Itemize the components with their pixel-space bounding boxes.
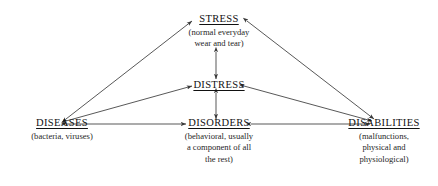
node-diseases[interactable]: DISEASES (bacteria, viruses) xyxy=(31,117,93,142)
node-disabilities-description: (malfunctions, physical and physiologica… xyxy=(348,131,419,165)
node-disabilities-label: DISABILITIES xyxy=(348,117,419,129)
edge-diseases-stress xyxy=(66,21,192,119)
node-disabilities-description-line-3: physiological) xyxy=(348,154,419,165)
node-stress-description: (normal everyday wear and tear) xyxy=(189,27,250,50)
node-diseases-label: DISEASES xyxy=(31,117,93,129)
node-disorders-description: (behavioral, usually a component of all … xyxy=(185,131,253,165)
edge-diseases-distress xyxy=(66,86,192,121)
edge-distress-disabilities xyxy=(244,86,372,121)
diagram-canvas: STRESS (normal everyday wear and tear) D… xyxy=(0,0,438,186)
node-stress-label: STRESS xyxy=(189,13,250,25)
node-diseases-description-line-1: (bacteria, viruses) xyxy=(31,131,93,142)
node-distress-label: DISTRESS xyxy=(193,79,244,91)
node-disorders[interactable]: DISORDERS (behavioral, usually a compone… xyxy=(185,117,253,165)
node-stress-description-line-2: wear and tear) xyxy=(189,38,250,49)
node-disorders-description-line-2: a component of all xyxy=(185,142,253,153)
node-disorders-description-line-3: the rest) xyxy=(185,154,253,165)
node-disabilities-description-line-1: (malfunctions, xyxy=(348,131,419,142)
node-diseases-description: (bacteria, viruses) xyxy=(31,131,93,142)
node-disabilities[interactable]: DISABILITIES (malfunctions, physical and… xyxy=(348,117,419,165)
node-disorders-description-line-1: (behavioral, usually xyxy=(185,131,253,142)
node-stress[interactable]: STRESS (normal everyday wear and tear) xyxy=(189,13,250,50)
node-disabilities-description-line-2: physical and xyxy=(348,142,419,153)
node-distress[interactable]: DISTRESS xyxy=(193,79,244,91)
node-disorders-label: DISORDERS xyxy=(185,117,253,129)
node-stress-description-line-1: (normal everyday xyxy=(189,27,250,38)
